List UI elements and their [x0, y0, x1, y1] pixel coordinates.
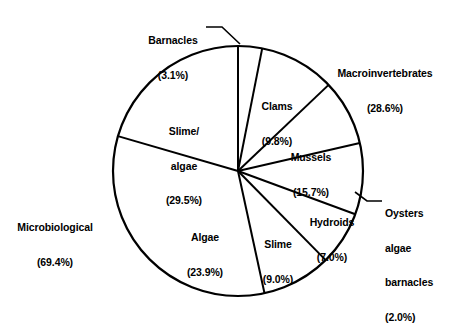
- group-label-macroinvertebrates-value: (28.6%): [318, 103, 452, 115]
- slice-label-slime: Slime (9.0%): [250, 216, 306, 308]
- group-label-microbiological-value: (69.4%): [2, 257, 108, 269]
- slice-label-barnacles-name: Barnacles: [136, 35, 210, 47]
- slice-label-slime-algae-name1: Slime/: [144, 126, 224, 138]
- slice-label-algae: Algae (23.9%): [168, 209, 242, 301]
- slice-label-hydroids: Hydroids (7.0%): [299, 194, 365, 286]
- slice-label-slime-algae-name2: algae: [144, 161, 224, 173]
- slice-label-hydroids-value: (7.0%): [299, 252, 365, 264]
- slice-label-slime-name: Slime: [250, 239, 306, 251]
- slice-label-oysters-value: (2.0%): [385, 312, 455, 324]
- slice-label-barnacles: Barnacles (3.1%): [136, 12, 210, 104]
- slice-label-oysters-algae-barnacles: Oysters algae barnacles (2.0%): [385, 185, 455, 327]
- slice-label-oysters-line3: barnacles: [385, 277, 455, 289]
- group-label-macroinvertebrates-name: Macroinvertebrates: [318, 68, 452, 80]
- group-label-microbiological-name: Microbiological: [2, 222, 108, 234]
- slice-label-oysters-line2: algae: [385, 243, 455, 255]
- group-label-microbiological: Microbiological (69.4%): [2, 199, 108, 291]
- slice-label-oysters-line1: Oysters: [385, 208, 455, 220]
- slice-label-slime-value: (9.0%): [250, 274, 306, 286]
- slice-label-hydroids-name: Hydroids: [299, 217, 365, 229]
- slice-label-mussels-name: Mussels: [272, 152, 350, 164]
- slice-label-slime-algae-value: (29.5%): [144, 195, 224, 207]
- slice-label-barnacles-value: (3.1%): [136, 70, 210, 82]
- slice-label-algae-name: Algae: [168, 232, 242, 244]
- slice-label-algae-value: (23.9%): [168, 267, 242, 279]
- slice-label-clams-name: Clams: [246, 101, 308, 113]
- barnacles-leader-line: [206, 27, 240, 44]
- group-label-macroinvertebrates: Macroinvertebrates (28.6%): [318, 45, 452, 137]
